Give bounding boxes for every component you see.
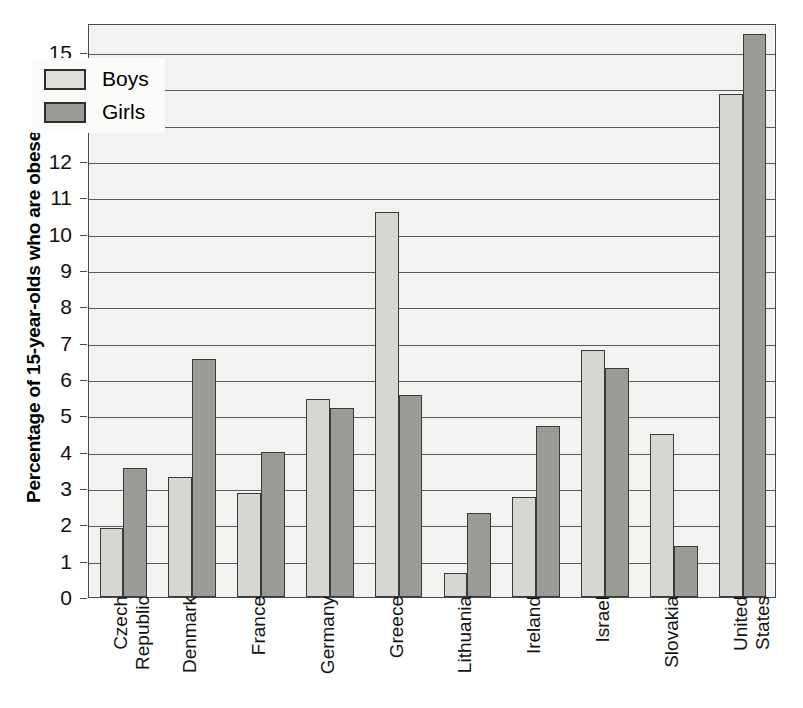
bar-group — [502, 25, 571, 597]
y-axis-tick-6: 6 — [60, 368, 72, 392]
bar-series-container — [89, 25, 775, 597]
bar-boys[interactable] — [512, 497, 536, 597]
bar-girls[interactable] — [399, 395, 423, 597]
y-axis-tick-2: 2 — [60, 513, 72, 537]
y-axis-tick-10: 10 — [49, 223, 72, 247]
y-axis-tick-4: 4 — [60, 441, 72, 465]
x-axis-tick-line: Slovakia — [661, 596, 683, 668]
bar-girls[interactable] — [192, 359, 216, 597]
x-axis-tick-line: United — [730, 596, 752, 651]
x-axis-tick-line: Republic — [132, 596, 154, 670]
y-axis-tickmark — [80, 344, 87, 345]
bar-group — [364, 25, 433, 597]
x-axis-tick-france: France — [248, 596, 272, 704]
bar-girls[interactable] — [605, 368, 629, 597]
legend-swatch-boys — [44, 69, 86, 90]
x-axis-tick-line: Czech — [110, 596, 132, 650]
y-axis-tickmark — [80, 525, 87, 526]
y-axis-tick-3: 3 — [60, 477, 72, 501]
legend-item-girls[interactable]: Girls — [44, 100, 149, 124]
legend-label: Boys — [102, 67, 149, 91]
chart-figure: Percentage of 15-year-olds who are obese… — [0, 0, 803, 708]
x-axis-tick-slovakia: Slovakia — [661, 596, 685, 704]
bar-boys[interactable] — [719, 94, 743, 597]
bar-group — [708, 25, 777, 597]
bar-group — [227, 25, 296, 597]
bar-boys[interactable] — [237, 493, 261, 597]
chart-legend: BoysGirls — [32, 58, 165, 133]
bar-boys[interactable] — [306, 399, 330, 597]
y-axis-tick-7: 7 — [60, 332, 72, 356]
x-axis-tick-line: Lithuania — [454, 596, 476, 673]
y-axis-tick-8: 8 — [60, 295, 72, 319]
legend-label: Girls — [102, 100, 145, 124]
y-axis-tickmark — [80, 416, 87, 417]
y-axis-tick-5: 5 — [60, 404, 72, 428]
y-axis-tickmark — [80, 307, 87, 308]
x-axis-tick-line: Greece — [386, 596, 408, 658]
x-axis-tick-line: Denmark — [179, 596, 201, 673]
bar-group — [158, 25, 227, 597]
y-axis-tick-1: 1 — [60, 550, 72, 574]
y-axis-tickmark — [80, 453, 87, 454]
bar-group — [433, 25, 502, 597]
y-axis-tick-12: 12 — [49, 150, 72, 174]
y-axis-tickmark — [80, 598, 87, 599]
x-axis-tick-germany: Germany — [317, 596, 341, 704]
x-axis-tick-united-states: UnitedStates — [730, 596, 754, 704]
x-axis-tick-greece: Greece — [386, 596, 410, 704]
y-axis-tickmark — [80, 162, 87, 163]
y-axis-tickmark — [80, 489, 87, 490]
legend-swatch-girls — [44, 102, 86, 123]
bar-girls[interactable] — [674, 546, 698, 597]
bar-group — [295, 25, 364, 597]
x-axis-tick-line: Germany — [317, 596, 339, 674]
x-axis-tick-line: Ireland — [523, 596, 545, 654]
bar-boys[interactable] — [100, 528, 124, 597]
plot-area — [88, 24, 776, 598]
x-axis-tick-ireland: Ireland — [523, 596, 547, 704]
y-axis-tickmark — [80, 562, 87, 563]
x-axis-tick-line: States — [752, 596, 774, 650]
legend-item-boys[interactable]: Boys — [44, 67, 149, 91]
y-axis-tickmark — [80, 53, 87, 54]
bar-boys[interactable] — [168, 477, 192, 597]
bar-boys[interactable] — [650, 434, 674, 597]
bar-group — [639, 25, 708, 597]
x-axis-tick-israel: Israel — [592, 596, 616, 704]
bar-boys[interactable] — [375, 212, 399, 597]
x-axis-tick-lithuania: Lithuania — [454, 596, 478, 704]
y-axis-tick-11: 11 — [50, 186, 72, 210]
bar-boys[interactable] — [444, 573, 468, 597]
bar-girls[interactable] — [330, 408, 354, 597]
bar-girls[interactable] — [261, 452, 285, 597]
bar-girls[interactable] — [743, 34, 767, 597]
y-axis-tickmark — [80, 380, 87, 381]
y-axis-tick-9: 9 — [60, 259, 72, 283]
y-axis-tickmark — [80, 271, 87, 272]
y-axis-tickmark — [80, 198, 87, 199]
x-axis-tick-labels: CzechRepublicDenmarkFranceGermanyGreeceL… — [88, 600, 776, 708]
bar-girls[interactable] — [536, 426, 560, 597]
bar-girls[interactable] — [467, 513, 491, 597]
x-axis-tick-line: Israel — [592, 596, 614, 642]
bar-group — [571, 25, 640, 597]
x-axis-tick-denmark: Denmark — [179, 596, 203, 704]
x-axis-tick-czech-republic: CzechRepublic — [110, 596, 134, 704]
bar-girls[interactable] — [123, 468, 147, 597]
y-axis-tick-0: 0 — [60, 586, 72, 610]
y-axis-tickmark — [80, 235, 87, 236]
x-axis-tick-line: France — [248, 596, 270, 655]
bar-boys[interactable] — [581, 350, 605, 597]
